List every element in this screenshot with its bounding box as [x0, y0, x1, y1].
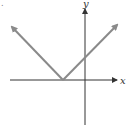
graph: . x y [0, 0, 129, 128]
figure-marker: . [1, 0, 4, 8]
x-axis-label: x [120, 75, 126, 86]
y-axis-label: y [82, 0, 89, 9]
right-branch [63, 25, 117, 80]
left-branch [12, 27, 63, 80]
